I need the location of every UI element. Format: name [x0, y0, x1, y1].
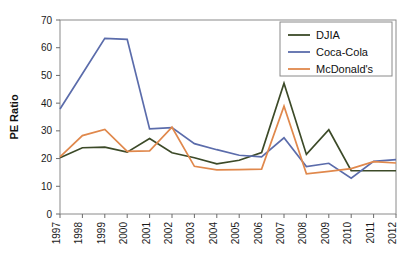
x-tick-label: 2008	[297, 222, 308, 245]
x-axis-ticks: 1997199819992000200120022003200420052006…	[51, 214, 398, 244]
y-tick-label: 50	[41, 70, 53, 81]
x-tick-label: 2004	[208, 222, 219, 245]
x-tick-label: 1998	[73, 222, 84, 245]
x-tick-label: 2002	[163, 222, 174, 245]
series-line-djia	[60, 83, 396, 171]
legend-label-coca-cola: Coca-Cola	[316, 46, 369, 58]
y-tick-label: 30	[41, 125, 53, 136]
x-tick-label: 2011	[365, 222, 376, 244]
y-tick-label: 60	[41, 42, 53, 53]
x-tick-label: 2003	[185, 222, 196, 245]
series-line-mcdonald-s	[60, 106, 396, 174]
x-tick-label: 1999	[96, 222, 107, 245]
x-tick-label: 2010	[342, 222, 353, 245]
legend-label-djia: DJIA	[316, 29, 341, 41]
x-tick-label: 2006	[253, 222, 264, 245]
y-tick-label: 10	[41, 181, 53, 192]
y-tick-label: 40	[41, 98, 53, 109]
x-tick-label: 2000	[118, 222, 129, 245]
y-axis-title: PE Ratio	[8, 94, 20, 140]
y-axis-ticks: 010203040506070	[41, 15, 60, 220]
x-tick-label: 2001	[141, 222, 152, 245]
chart-legend: DJIACoca-ColaMcDonald's	[280, 22, 392, 76]
pe-ratio-line-chart: 010203040506070 199719981999200020012002…	[0, 0, 414, 272]
x-tick-label: 2005	[230, 222, 241, 245]
x-tick-label: 1997	[51, 222, 62, 245]
x-tick-label: 2007	[275, 222, 286, 245]
y-tick-label: 20	[41, 153, 53, 164]
x-tick-label: 2012	[387, 222, 398, 245]
chart-container: 010203040506070 199719981999200020012002…	[0, 0, 414, 272]
y-tick-label: 70	[41, 15, 53, 26]
x-tick-label: 2009	[320, 222, 331, 245]
legend-label-mcdonald-s: McDonald's	[316, 63, 374, 75]
y-tick-label: 0	[46, 209, 52, 220]
